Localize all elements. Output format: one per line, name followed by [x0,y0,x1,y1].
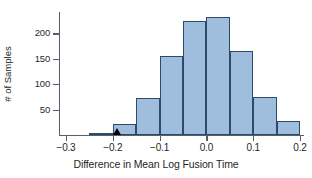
x-axis-tick [206,135,207,141]
bars-container [0,0,312,135]
x-axis-tick-label: −0.2 [93,142,133,153]
x-axis-tick-label: −0.3 [46,142,86,153]
histogram-chart: # of Samples 50100150200 −0.3−0.2−0.10.0… [0,0,312,178]
histogram-bar [277,121,300,135]
x-axis-tick [300,135,301,141]
histogram-bar [253,97,276,135]
histogram-bar [89,133,112,135]
x-axis-tick-label: −0.1 [140,142,180,153]
x-axis-line [60,135,304,136]
x-axis-tick [113,135,114,141]
histogram-bar [230,51,253,135]
x-axis-tick [160,135,161,141]
observed-value-marker-icon [113,128,121,135]
x-axis-tick [253,135,254,141]
x-axis-title: Difference in Mean Log Fusion Time [0,158,312,170]
histogram-bar [160,56,183,135]
x-axis-tick-label: 0.1 [233,142,273,153]
histogram-bar [136,98,159,135]
x-axis-tick [66,135,67,141]
x-axis-tick-label: 0.2 [280,142,312,153]
x-axis-tick-label: 0.0 [186,142,226,153]
histogram-bar [183,21,206,135]
histogram-bar [206,17,229,135]
